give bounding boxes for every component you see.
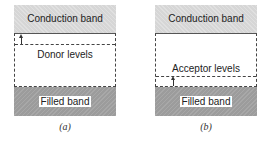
caption-b: (b): [155, 121, 257, 132]
band-gap: Donor levels: [14, 33, 116, 87]
filled-band: Filled band: [14, 87, 116, 116]
filled-band-label: Filled band: [155, 96, 257, 108]
panel-b-acceptor-diagram: Conduction band Acceptor levels Filled b…: [155, 5, 257, 116]
acceptor-levels-label: Acceptor levels: [156, 63, 256, 75]
band-gap: Acceptor levels: [155, 33, 257, 87]
conduction-band-label: Conduction band: [14, 13, 116, 25]
filled-band-label: Filled band: [14, 96, 116, 108]
conduction-band-label: Conduction band: [155, 13, 257, 25]
filled-band: Filled band: [155, 87, 257, 116]
conduction-band: Conduction band: [155, 5, 257, 33]
up-arrow-icon: [21, 37, 22, 44]
caption-a: (a): [14, 121, 116, 132]
panel-a-donor-diagram: Conduction band Donor levels Filled band: [14, 5, 116, 116]
donor-levels-label: Donor levels: [15, 49, 115, 61]
conduction-band: Conduction band: [14, 5, 116, 33]
up-arrow-icon: [173, 79, 174, 86]
donor-level-line: [15, 44, 115, 45]
